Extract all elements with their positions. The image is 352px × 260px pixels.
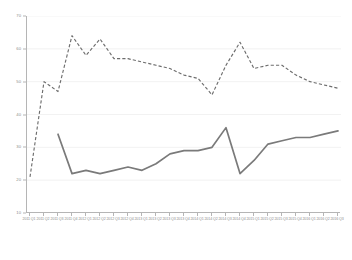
x-tick-mark (239, 213, 240, 216)
y-tick-label: 60 (16, 47, 21, 51)
y-tick-label: 20 (16, 178, 21, 182)
x-tick-label: 2011 Q3 (51, 218, 64, 222)
plot-svg (27, 16, 341, 213)
y-tick-label: 30 (16, 145, 21, 149)
x-tick-label: 2016 Q3 (330, 218, 343, 222)
x-tick-mark (183, 213, 184, 216)
series-line-1 (30, 36, 338, 177)
x-tick-label: 2012 Q3 (106, 218, 119, 222)
x-tick-mark (113, 213, 114, 216)
x-tick-label: 2012 Q2 (92, 218, 105, 222)
line-chart: 10203040506070 2011 Q12011 Q22011 Q32011… (0, 0, 352, 260)
x-tick-mark (211, 213, 212, 216)
x-tick-mark (127, 213, 128, 216)
x-tick-mark (253, 213, 254, 216)
x-tick-mark (71, 213, 72, 216)
x-tick-mark (85, 213, 86, 216)
y-tick-label: 70 (16, 14, 21, 18)
series-line-2 (58, 128, 338, 174)
x-tick-label: 2014 Q3 (218, 218, 231, 222)
x-tick-mark (57, 213, 58, 216)
x-tick-mark (43, 213, 44, 216)
y-tick-label: 50 (16, 80, 21, 84)
x-tick-label: 2015 Q1 (246, 218, 259, 222)
y-axis: 10203040506070 (0, 0, 26, 213)
x-tick-label: 2013 Q3 (162, 218, 175, 222)
plot-area (26, 16, 340, 213)
x-tick-label: 2014 Q2 (204, 218, 217, 222)
x-tick-mark (99, 213, 100, 216)
x-tick-label: 2013 Q4 (176, 218, 189, 222)
x-tick-mark (323, 213, 324, 216)
x-tick-label: 2015 Q4 (288, 218, 301, 222)
x-axis: 2011 Q12011 Q22011 Q32011 Q42012 Q12012 … (26, 213, 340, 253)
x-tick-mark (169, 213, 170, 216)
x-tick-label: 2015 Q2 (260, 218, 273, 222)
x-tick-mark (337, 213, 338, 216)
x-tick-label: 2013 Q2 (148, 218, 161, 222)
x-tick-label: 2011 Q2 (37, 218, 50, 222)
x-tick-mark (267, 213, 268, 216)
x-tick-label: 2012 Q4 (120, 218, 133, 222)
gridlines (27, 16, 341, 180)
y-tick-label: 40 (16, 112, 21, 116)
x-tick-mark (141, 213, 142, 216)
x-tick-label: 2014 Q4 (232, 218, 245, 222)
x-tick-label: 2012 Q1 (78, 218, 91, 222)
x-tick-mark (225, 213, 226, 216)
x-tick-label: 2016 Q2 (316, 218, 329, 222)
x-tick-mark (29, 213, 30, 216)
y-tick-label: 10 (16, 211, 21, 215)
series-layer (30, 36, 338, 177)
x-tick-label: 2014 Q1 (190, 218, 203, 222)
x-tick-label: 2011 Q1 (23, 218, 36, 222)
x-tick-label: 2011 Q4 (65, 218, 78, 222)
x-tick-label: 2016 Q1 (302, 218, 315, 222)
x-tick-mark (197, 213, 198, 216)
x-tick-mark (155, 213, 156, 216)
x-tick-mark (281, 213, 282, 216)
x-tick-label: 2015 Q3 (274, 218, 287, 222)
x-tick-label: 2013 Q1 (134, 218, 147, 222)
x-tick-mark (309, 213, 310, 216)
x-tick-mark (295, 213, 296, 216)
